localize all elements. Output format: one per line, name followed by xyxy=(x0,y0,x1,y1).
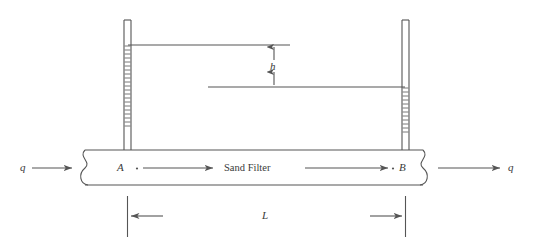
sand-filter-label: Sand Filter xyxy=(224,163,270,174)
piezometer-left-water-column xyxy=(125,46,131,126)
outlet-flow-label: q xyxy=(508,162,514,173)
diagram-canvas xyxy=(0,0,539,241)
length-label: L xyxy=(262,210,268,221)
pipe-left-break-icon xyxy=(81,150,88,185)
sand-filter-diagram: q q A B Sand Filter h L xyxy=(0,0,539,241)
point-a-marker xyxy=(136,167,138,169)
point-b-label: B xyxy=(399,162,406,173)
piezometer-right xyxy=(402,20,409,150)
piezometer-left xyxy=(124,20,131,150)
head-loss-label: h xyxy=(270,61,276,72)
piezometer-right-water-column xyxy=(403,88,409,132)
point-a-label: A xyxy=(117,162,124,173)
inlet-flow-label: q xyxy=(20,162,26,173)
pipe-right-break-icon xyxy=(420,150,427,185)
point-b-marker xyxy=(392,167,394,169)
